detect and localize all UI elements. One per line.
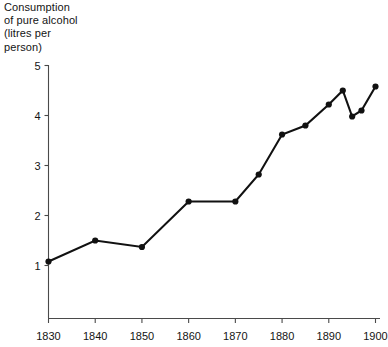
x-tick-label: 1860	[176, 330, 200, 342]
data-point	[326, 101, 332, 107]
x-tick-label: 1850	[130, 330, 154, 342]
data-point	[45, 258, 51, 264]
data-point	[340, 87, 346, 93]
data-point	[279, 131, 285, 137]
data-point	[372, 83, 378, 89]
chart-container: Consumption of pure alcohol (litres per …	[0, 0, 388, 347]
x-tick-label: 1900	[363, 330, 387, 342]
data-point	[139, 244, 145, 250]
y-tick-label: 3	[34, 160, 40, 172]
data-point	[256, 171, 262, 177]
y-axis-ticks: 12345	[34, 60, 48, 272]
data-point	[302, 122, 308, 128]
y-tick-label: 5	[34, 60, 40, 72]
line-chart-plot: 12345 18301840185018601870188018901900	[0, 0, 388, 347]
data-point-markers	[45, 83, 378, 264]
x-tick-label: 1830	[36, 330, 60, 342]
y-tick-label: 2	[34, 210, 40, 222]
data-point	[186, 198, 192, 204]
x-tick-label: 1840	[83, 330, 107, 342]
x-axis-ticks: 18301840185018601870188018901900	[36, 319, 387, 343]
x-tick-label: 1870	[223, 330, 247, 342]
data-point	[358, 107, 364, 113]
data-point	[92, 237, 98, 243]
x-tick-label: 1890	[317, 330, 341, 342]
y-tick-label: 4	[34, 110, 40, 122]
data-point	[349, 113, 355, 119]
y-tick-label: 1	[34, 260, 40, 272]
data-series-line	[49, 87, 376, 262]
x-tick-label: 1880	[270, 330, 294, 342]
data-point	[232, 198, 238, 204]
